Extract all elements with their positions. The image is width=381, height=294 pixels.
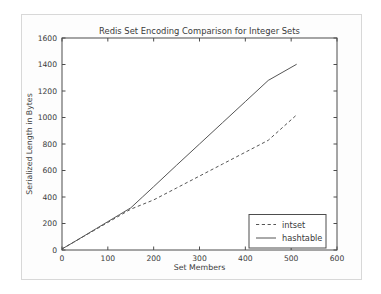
y-tick-label: 200 bbox=[43, 219, 58, 228]
chart-canvas: 0100200300400500600 02004006008001000120… bbox=[0, 0, 381, 294]
y-tick-label: 1400 bbox=[38, 60, 57, 69]
y-tick-label: 1600 bbox=[38, 34, 57, 43]
y-tick-label: 1200 bbox=[38, 87, 57, 96]
x-axis-title: Set Members bbox=[174, 263, 225, 272]
x-tick-label: 600 bbox=[330, 254, 345, 263]
x-tick-label: 300 bbox=[192, 254, 207, 263]
y-axis-tick-labels: 02004006008001000120014001600 bbox=[38, 34, 57, 255]
chart-legend[interactable]: intsethashtable bbox=[249, 215, 326, 249]
y-tick-label: 600 bbox=[43, 166, 58, 175]
x-tick-label: 200 bbox=[146, 254, 161, 263]
chart-svg: 0100200300400500600 02004006008001000120… bbox=[0, 0, 381, 294]
y-tick-label: 800 bbox=[43, 140, 58, 149]
x-tick-label: 500 bbox=[284, 254, 299, 263]
x-tick-label: 100 bbox=[101, 254, 116, 263]
y-tick-label: 0 bbox=[52, 246, 57, 255]
chart-title: Redis Set Encoding Comparison for Intege… bbox=[99, 26, 300, 36]
y-tick-label: 1000 bbox=[38, 113, 57, 122]
x-tick-label: 400 bbox=[238, 254, 253, 263]
x-tick-label: 0 bbox=[60, 254, 65, 263]
x-axis-tick-labels: 0100200300400500600 bbox=[60, 254, 345, 263]
legend-label-intset: intset bbox=[282, 220, 306, 230]
legend-label-hashtable: hashtable bbox=[282, 233, 322, 243]
y-tick-label: 400 bbox=[43, 193, 58, 202]
y-axis-title: Serialized Length in Bytes bbox=[25, 93, 34, 194]
